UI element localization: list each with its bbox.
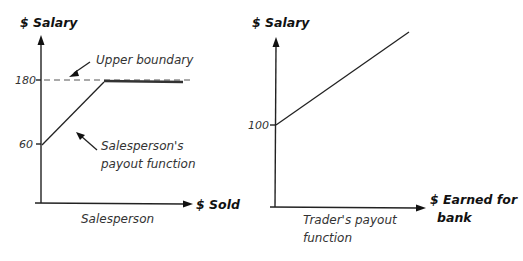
right-x-axis-label-line1: $ Earned for bbox=[430, 192, 518, 207]
right-y-axis-label: $ Salary bbox=[252, 15, 310, 30]
right-y-axis-arrowhead bbox=[273, 37, 280, 47]
right-x-axis bbox=[270, 207, 417, 208]
payout-pointer bbox=[81, 136, 97, 150]
trader-caption-line1: Trader's payout bbox=[303, 213, 398, 227]
right-x-axis-label-line2: bank bbox=[437, 210, 472, 225]
tick-label-60: 60 bbox=[19, 138, 33, 151]
left-y-axis-arrowhead bbox=[38, 35, 45, 45]
left-x-axis bbox=[35, 203, 184, 204]
left-x-axis-arrowhead bbox=[183, 201, 193, 208]
payout-label-line1: Salesperson's bbox=[101, 139, 184, 153]
trader-payout-line bbox=[276, 32, 409, 125]
upper-boundary-label: Upper boundary bbox=[96, 53, 194, 67]
right-x-axis-arrowhead bbox=[416, 205, 426, 212]
salesperson-caption: Salesperson bbox=[81, 212, 154, 226]
salesperson-payout-slope bbox=[42, 82, 104, 145]
tick-label-100: 100 bbox=[248, 119, 269, 132]
left-y-axis-label: $ Salary bbox=[20, 15, 78, 30]
salesperson-payout-cap bbox=[104, 81, 183, 82]
payout-label-line2: payout function bbox=[100, 157, 196, 171]
payout-diagram: $ Salary $ Sold 180 60 Upper boundary Sa… bbox=[0, 0, 523, 261]
left-x-axis-label: $ Sold bbox=[196, 197, 241, 212]
tick-label-180: 180 bbox=[15, 74, 36, 87]
salesperson-chart: $ Salary $ Sold 180 60 Upper boundary Sa… bbox=[15, 15, 241, 226]
trader-chart: $ Salary 100 $ Earned for bank Trader's … bbox=[248, 15, 518, 245]
trader-caption-line2: function bbox=[303, 231, 352, 245]
right-y-axis bbox=[275, 46, 276, 207]
